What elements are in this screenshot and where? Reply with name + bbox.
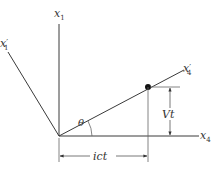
theta-arc xyxy=(88,121,92,136)
theta-label: θ xyxy=(78,117,84,128)
x1-prime-axis-label: x′1 xyxy=(0,37,9,52)
x4-axis-label: x4 xyxy=(200,129,211,144)
spacetime-rotation-diagram: x1 x′1 x4 x′4 θ Vt ict xyxy=(0,0,214,173)
x1-prime-axis xyxy=(8,52,59,136)
x1-axis-label: x1 xyxy=(54,7,65,22)
vt-label: Vt xyxy=(162,108,175,121)
ict-label: ict xyxy=(93,150,108,163)
x4-prime-axis-label: x′4 xyxy=(183,62,192,77)
